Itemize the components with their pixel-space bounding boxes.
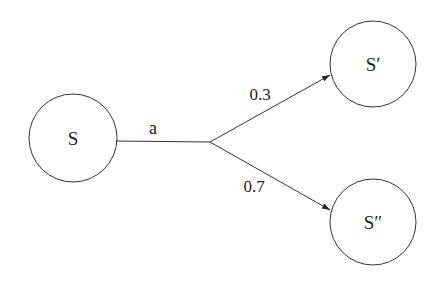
edge-to-s-double-prime <box>210 142 330 210</box>
edge-prob-0-7: 0.7 <box>243 177 265 196</box>
node-s-double-prime: S″ <box>330 179 416 265</box>
node-s: S <box>29 94 117 182</box>
diagram-canvas: S S′ S″ a 0.3 0.7 <box>0 0 437 284</box>
node-s-prime-label: S′ <box>366 54 381 75</box>
action-edge <box>116 141 210 142</box>
node-s-double-prime-label: S″ <box>364 212 382 233</box>
node-s-label: S <box>68 128 79 149</box>
node-s-prime: S′ <box>330 21 416 107</box>
action-label: a <box>149 118 157 138</box>
transition-diagram: S S′ S″ a 0.3 0.7 <box>0 0 437 284</box>
edge-prob-0-3: 0.3 <box>249 85 270 104</box>
